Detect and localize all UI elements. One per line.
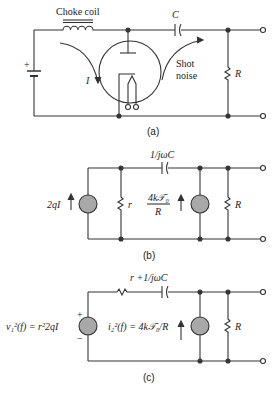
figure-b: 1/jωC 2qI r 4k𝒯₀ R R (b): [47, 149, 266, 261]
current-label: i₂²(f) = 4k𝒯₀/R: [108, 321, 168, 333]
voltage-label: v₁²(f) = r²2qI: [6, 321, 59, 333]
source-2qI-label: 2qI: [47, 199, 61, 210]
choke-coil-label: Choke coil: [56, 6, 100, 17]
vacuum-tube: [99, 41, 161, 103]
figure-c: r +1/jωC + − v₁²(f) = r²2qI i₂²(f) = 4k𝒯…: [6, 272, 266, 383]
choke-coil: [34, 26, 175, 30]
circuit-diagrams: Choke coil C + I Shot noise R (a: [0, 0, 278, 394]
series-impedance-label: r +1/jωC: [130, 272, 168, 283]
resistor-R: [225, 30, 230, 116]
plus-sign: +: [77, 309, 83, 320]
resistor-r: [118, 168, 123, 239]
thermal-noise-den: R: [154, 206, 161, 217]
terminal-top: [261, 28, 266, 33]
capacitor-c-label: C: [172, 9, 179, 20]
minus-sign: −: [77, 333, 83, 344]
current-I-label: I: [85, 75, 90, 86]
thermal-noise-num: 4k𝒯₀: [148, 192, 169, 203]
shot-current-source: [79, 195, 97, 213]
caption-a: (a): [147, 126, 159, 137]
thermal-current-source: [191, 195, 209, 213]
current-source-c: [191, 317, 209, 335]
noise-label: noise: [176, 70, 198, 81]
figure-a: Choke coil C + I Shot noise R (a: [24, 6, 266, 137]
capacitor-label-b: 1/jωC: [150, 149, 175, 160]
resistor-R-label-c: R: [234, 321, 241, 332]
resistor-R-label: R: [234, 68, 241, 79]
caption-b: (b): [143, 250, 155, 261]
resistor-R-label-b: R: [234, 199, 241, 210]
shot-label: Shot: [176, 58, 195, 69]
resistor-r-label: r: [128, 199, 132, 210]
battery-plus: +: [24, 59, 30, 70]
caption-c: (c): [143, 372, 155, 383]
